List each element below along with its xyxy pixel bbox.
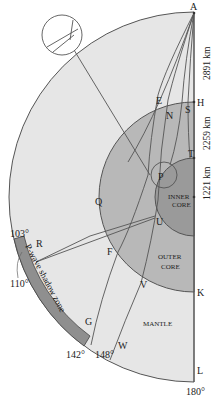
label-f: F bbox=[107, 246, 113, 257]
mantle-label: MANTLE bbox=[143, 320, 172, 328]
angle-180: 180° bbox=[186, 386, 205, 397]
inset-circle bbox=[42, 15, 82, 55]
label-r: R bbox=[36, 238, 43, 249]
label-p: P bbox=[158, 171, 164, 182]
label-w: W bbox=[118, 340, 128, 351]
label-k: K bbox=[197, 287, 205, 298]
label-a: A bbox=[190, 1, 198, 12]
depth-mantle: 2891 km bbox=[202, 46, 212, 80]
label-l: L bbox=[197, 365, 203, 376]
angle-110: 110° bbox=[10, 278, 29, 289]
label-n: N bbox=[166, 110, 173, 121]
inner-core-label-2: CORE bbox=[172, 201, 191, 209]
label-s: S bbox=[185, 104, 191, 115]
label-e: E bbox=[156, 95, 162, 106]
depth-outer-core: 2259 km bbox=[202, 116, 212, 150]
inner-core-label-1: INNER bbox=[168, 193, 190, 201]
label-v: V bbox=[140, 279, 148, 290]
depth-inner-core: 1221 km bbox=[202, 166, 212, 200]
label-u: U bbox=[156, 216, 164, 227]
outer-core-label-2: CORE bbox=[161, 263, 180, 271]
label-q: Q bbox=[95, 196, 103, 207]
outer-core-label-1: OUTER bbox=[158, 253, 182, 261]
label-g: G bbox=[85, 316, 92, 327]
angle-148: 148° bbox=[95, 349, 114, 360]
angle-103: 103° bbox=[10, 228, 29, 239]
earth-cross-section-diagram: A E N S H P T Q U R F V K G W L INNER CO… bbox=[0, 0, 221, 401]
label-h: H bbox=[197, 97, 204, 108]
angle-142: 142° bbox=[66, 349, 85, 360]
